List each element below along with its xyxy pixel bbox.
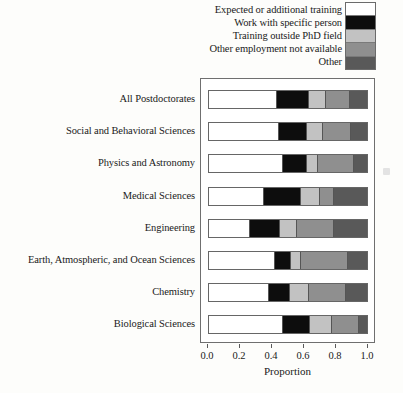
legend-swatch-expected-or-additional-training — [346, 3, 375, 16]
bar-segment-expected-or-additional-training[interactable] — [209, 284, 269, 301]
x-axis-tick-label: 1.0 — [352, 349, 382, 362]
x-axis-tick-label: 0.8 — [320, 349, 350, 362]
legend-swatch-column — [345, 2, 376, 70]
bar-segment-work-with-specific-person[interactable] — [250, 220, 280, 237]
plot-area — [208, 79, 368, 342]
x-axis-title: Proportion — [200, 365, 375, 377]
bar-segment-expected-or-additional-training[interactable] — [209, 123, 279, 140]
bar-segment-training-outside-phd-field[interactable] — [290, 284, 309, 301]
bar-segment-other-employment-not-available[interactable] — [301, 252, 348, 269]
x-axis-tick-mark — [239, 344, 240, 348]
bar-segment-other-employment-not-available[interactable] — [326, 91, 350, 108]
x-axis-tick-label: 0.6 — [288, 349, 318, 362]
chart-legend: Expected or additional training Work wit… — [196, 2, 376, 70]
bar-segment-other[interactable] — [359, 316, 367, 333]
bar-segment-expected-or-additional-training[interactable] — [209, 252, 275, 269]
legend-label-other-employment-not-available: Other employment not available — [209, 42, 342, 55]
x-axis-tick-label: 0.4 — [256, 349, 286, 362]
legend-label-other: Other — [319, 55, 342, 68]
legend-swatch-other-employment-not-available — [346, 43, 375, 56]
bar-segment-work-with-specific-person[interactable] — [275, 252, 291, 269]
bar-segment-other[interactable] — [334, 220, 367, 237]
bar-segment-training-outside-phd-field[interactable] — [307, 123, 323, 140]
bar-segment-other[interactable] — [354, 155, 367, 172]
legend-label-training-outside-phd-field: Training outside PhD field — [233, 29, 342, 42]
bar-segment-training-outside-phd-field[interactable] — [307, 155, 318, 172]
y-axis-label-engineering: Engineering — [0, 222, 195, 234]
bar-segment-other-employment-not-available[interactable] — [297, 220, 333, 237]
bar-row[interactable] — [208, 187, 368, 206]
bar-segment-training-outside-phd-field[interactable] — [309, 91, 326, 108]
legend-swatch-work-with-specific-person — [346, 16, 375, 29]
scan-artifact — [383, 168, 390, 175]
bar-segment-expected-or-additional-training[interactable] — [209, 220, 250, 237]
bar-segment-other-employment-not-available[interactable] — [309, 284, 347, 301]
y-axis-label-medical-sciences: Medical Sciences — [0, 190, 195, 202]
y-axis-label-chemistry: Chemistry — [0, 286, 195, 298]
chart-figure: Expected or additional training Work wit… — [0, 0, 403, 393]
bar-segment-other[interactable] — [351, 123, 367, 140]
bar-segment-training-outside-phd-field[interactable] — [301, 188, 320, 205]
legend-label-column: Expected or additional training Work wit… — [196, 2, 342, 68]
legend-label-work-with-specific-person: Work with specific person — [234, 16, 342, 29]
bar-segment-other[interactable] — [348, 252, 367, 269]
bar-segment-training-outside-phd-field[interactable] — [291, 252, 300, 269]
bar-segment-training-outside-phd-field[interactable] — [310, 316, 332, 333]
bar-row[interactable] — [208, 122, 368, 141]
bar-segment-expected-or-additional-training[interactable] — [209, 91, 277, 108]
bar-row[interactable] — [208, 251, 368, 270]
y-axis-label-social-and-behavioral-sciences: Social and Behavioral Sciences — [0, 125, 195, 137]
plot-panel — [200, 78, 375, 343]
bar-row[interactable] — [208, 315, 368, 334]
legend-swatch-other — [346, 57, 375, 69]
bar-segment-other[interactable] — [334, 188, 367, 205]
x-axis-tick-label: 0.2 — [224, 349, 254, 362]
bar-segment-other-employment-not-available[interactable] — [320, 188, 334, 205]
bar-segment-work-with-specific-person[interactable] — [279, 123, 307, 140]
y-axis-label-biological-sciences: Biological Sciences — [0, 318, 195, 330]
x-axis-tick-mark — [207, 344, 208, 348]
bar-row[interactable] — [208, 219, 368, 238]
bar-segment-work-with-specific-person[interactable] — [269, 284, 290, 301]
bar-row[interactable] — [208, 154, 368, 173]
y-axis-label-physics-and-astronomy: Physics and Astronomy — [0, 157, 195, 169]
bar-row[interactable] — [208, 283, 368, 302]
bar-segment-work-with-specific-person[interactable] — [283, 316, 310, 333]
legend-label-expected-or-additional-training: Expected or additional training — [215, 3, 342, 16]
x-axis-tick-mark — [271, 344, 272, 348]
y-axis-label-earth-atmospheric-and-ocean-sciences: Earth, Atmospheric, and Ocean Sciences — [0, 254, 195, 266]
x-axis-tick-mark — [367, 344, 368, 348]
bar-segment-expected-or-additional-training[interactable] — [209, 188, 264, 205]
bar-segment-expected-or-additional-training[interactable] — [209, 316, 283, 333]
bar-row[interactable] — [208, 90, 368, 109]
x-axis-tick-mark — [335, 344, 336, 348]
bar-segment-training-outside-phd-field[interactable] — [280, 220, 297, 237]
bar-segment-other[interactable] — [346, 284, 367, 301]
bar-segment-expected-or-additional-training[interactable] — [209, 155, 283, 172]
bar-segment-other-employment-not-available[interactable] — [323, 123, 351, 140]
bar-segment-work-with-specific-person[interactable] — [283, 155, 307, 172]
bar-segment-other-employment-not-available[interactable] — [332, 316, 359, 333]
legend-swatch-training-outside-phd-field — [346, 30, 375, 43]
x-axis-tick-mark — [303, 344, 304, 348]
y-axis-label-all-postdoctorates: All Postdoctorates — [0, 93, 195, 105]
x-axis-tick-label: 0.0 — [192, 349, 222, 362]
bar-segment-work-with-specific-person[interactable] — [277, 91, 309, 108]
bar-segment-other-employment-not-available[interactable] — [318, 155, 354, 172]
bar-segment-work-with-specific-person[interactable] — [264, 188, 300, 205]
bar-segment-other[interactable] — [350, 91, 367, 108]
